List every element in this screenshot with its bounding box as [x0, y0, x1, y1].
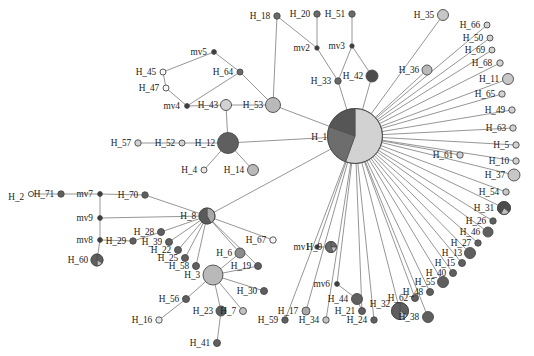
network-node-h_13[interactable]: [465, 248, 476, 259]
network-node-h_57[interactable]: [135, 140, 141, 146]
network-node-h_20[interactable]: [314, 11, 320, 17]
network-node-h_66[interactable]: [484, 22, 490, 28]
network-node-h_36[interactable]: [422, 65, 432, 75]
network-node-h_45[interactable]: [160, 69, 166, 75]
network-node-mv5[interactable]: [212, 50, 217, 55]
node-disc: [349, 11, 355, 17]
edges-layer: [33, 17, 513, 340]
node-label-h_52: H_52: [155, 138, 176, 148]
network-node-h_53[interactable]: [266, 98, 281, 113]
node-label-h_26: H_26: [466, 216, 487, 226]
network-node-h_61[interactable]: [457, 152, 463, 158]
network-edge: [98, 242, 100, 254]
node-label-h_46: H_46: [460, 227, 481, 237]
network-node-h_31[interactable]: [497, 202, 510, 215]
network-node-h_41[interactable]: [214, 340, 221, 347]
network-node-h_15[interactable]: [459, 260, 466, 267]
network-node-mv9[interactable]: [98, 216, 103, 221]
node-label-h_37: H_37: [485, 170, 506, 180]
network-edge: [364, 162, 413, 295]
network-node-h_70[interactable]: [142, 192, 148, 198]
network-node-h_54[interactable]: [503, 189, 509, 195]
node-disc: [158, 229, 165, 236]
node-label-mv4: mv4: [163, 101, 180, 111]
network-node-h_18[interactable]: [274, 13, 280, 19]
network-edge: [188, 281, 205, 296]
network-node-h_65[interactable]: [499, 91, 505, 97]
node-disc: [497, 60, 503, 66]
network-node-h_50[interactable]: [487, 35, 493, 41]
node-disc: [179, 140, 185, 146]
network-node-h_24[interactable]: [371, 317, 377, 323]
node-disc: [183, 296, 190, 303]
node-label-h_15: H_15: [435, 258, 456, 268]
network-node-h_11[interactable]: [503, 74, 514, 85]
network-node-h_68[interactable]: [497, 60, 503, 66]
node-label-h_41: H_41: [190, 338, 211, 348]
network-node-h_43[interactable]: [221, 100, 232, 111]
node-label-h_7: H_7: [220, 306, 236, 316]
network-node-h_49[interactable]: [509, 107, 515, 113]
network-node-h_21[interactable]: [359, 308, 366, 315]
network-node-h_14[interactable]: [248, 165, 259, 176]
network-node-h_69[interactable]: [489, 47, 495, 53]
network-node-h_5[interactable]: [513, 142, 519, 148]
network-node-h_71[interactable]: [58, 191, 64, 197]
node-disc: [366, 70, 378, 82]
network-node-h_42[interactable]: [366, 70, 378, 82]
network-node-h_60[interactable]: [91, 254, 103, 266]
network-node-h_17[interactable]: [302, 307, 310, 315]
node-disc: [221, 100, 232, 111]
network-node-h_9[interactable]: [326, 242, 337, 253]
network-node-h_55[interactable]: [438, 277, 449, 288]
network-node-h_51[interactable]: [349, 11, 355, 17]
network-node-h_1[interactable]: [327, 109, 382, 164]
node-disc: [135, 140, 141, 146]
network-node-h_46[interactable]: [483, 227, 493, 237]
network-node-h_35[interactable]: [438, 10, 449, 21]
network-node-h_27[interactable]: [475, 240, 481, 246]
network-node-h_29[interactable]: [130, 238, 136, 244]
node-label-mv3: mv3: [328, 41, 345, 51]
network-node-mv7[interactable]: [98, 192, 103, 197]
network-node-h_37[interactable]: [508, 169, 520, 181]
network-node-h_33[interactable]: [335, 78, 341, 84]
network-edge: [217, 316, 220, 340]
network-node-h_6[interactable]: [235, 248, 245, 258]
network-edge: [273, 19, 277, 98]
network-node-mv3[interactable]: [350, 44, 354, 48]
network-node-h_4[interactable]: [201, 167, 207, 173]
network-node-h_40[interactable]: [450, 270, 457, 277]
network-node-h_67[interactable]: [270, 237, 276, 243]
network-node-h_44[interactable]: [352, 294, 363, 305]
network-node-mv6[interactable]: [335, 282, 340, 287]
network-node-h_52[interactable]: [179, 140, 185, 146]
node-label-h_53: H_53: [243, 100, 264, 110]
network-node-h_64[interactable]: [237, 69, 243, 75]
network-node-h_28[interactable]: [158, 229, 165, 236]
node-disc: [193, 263, 200, 270]
network-node-h_8[interactable]: [199, 208, 215, 224]
network-node-h_63[interactable]: [510, 125, 516, 131]
network-node-h_34[interactable]: [323, 317, 329, 323]
network-node-h_16[interactable]: [156, 317, 162, 323]
network-node-h_30[interactable]: [261, 288, 268, 295]
network-node-h_47[interactable]: [163, 85, 169, 91]
network-node-h_3[interactable]: [203, 265, 223, 285]
network-node-h_7[interactable]: [240, 308, 247, 315]
network-node-mv4[interactable]: [185, 104, 190, 109]
network-node-h_58[interactable]: [193, 263, 200, 270]
node-label-h_33: H_33: [311, 76, 332, 86]
node-disc: [235, 248, 245, 258]
network-node-mv2[interactable]: [315, 46, 319, 50]
network-node-h_56[interactable]: [183, 296, 190, 303]
network-node-h_19[interactable]: [255, 263, 262, 270]
node-disc: [484, 22, 490, 28]
network-node-h_48[interactable]: [427, 289, 434, 296]
network-node-h_59[interactable]: [282, 317, 288, 323]
network-node-h_26[interactable]: [490, 218, 496, 224]
network-node-h_12[interactable]: [218, 133, 239, 154]
network-node-mv8[interactable]: [98, 238, 103, 243]
network-node-h_38[interactable]: [423, 312, 434, 323]
network-node-h_10[interactable]: [513, 158, 519, 164]
